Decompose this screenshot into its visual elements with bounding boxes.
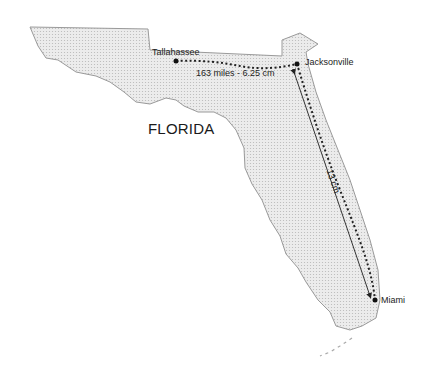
city-label-tallahassee: Tallahassee	[152, 47, 200, 57]
city-dot-miami[interactable]	[373, 298, 378, 303]
city-dot-tallahassee[interactable]	[174, 59, 179, 64]
florida-map	[0, 0, 432, 380]
state-label: FLORIDA	[148, 120, 214, 137]
city-label-jacksonville: Jacksonville	[305, 57, 354, 67]
city-label-miami: Miami	[381, 295, 405, 305]
distance-label-tallahassee-jacksonville: 163 miles - 6.25 cm	[196, 68, 275, 78]
city-dot-jacksonville[interactable]	[295, 62, 300, 67]
florida-keys	[320, 338, 352, 356]
